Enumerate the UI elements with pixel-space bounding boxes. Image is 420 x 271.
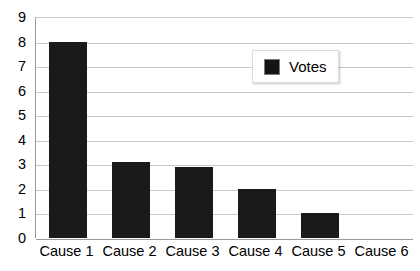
y-tick-label: 8 [2,34,26,49]
bar-slot [162,18,225,238]
x-tick-label: Cause 2 [102,243,156,260]
bar-slot [36,18,99,238]
y-tick-label: 0 [2,231,26,246]
y-axis: 9 8 7 6 5 4 3 2 1 0 [0,0,35,271]
gridline [36,239,413,240]
bar [112,162,150,238]
bar-slot [99,18,162,238]
x-tick-label: Cause 5 [291,243,345,260]
plot-area [35,17,413,238]
y-tick-label: 6 [2,83,26,98]
chart-legend: Votes [252,50,339,83]
y-tick-label: 4 [2,133,26,148]
y-tick-label: 2 [2,182,26,197]
legend-swatch-icon [264,59,280,75]
x-tick-label: Cause 4 [228,243,282,260]
x-tick-label: Cause 3 [165,243,219,260]
bar [238,189,276,238]
x-tick-label: Cause 1 [39,243,93,260]
y-tick-label: 9 [2,10,26,25]
x-axis: Cause 1Cause 2Cause 3Cause 4Cause 5Cause… [35,243,413,267]
y-tick-label: 7 [2,59,26,74]
bar-slot [351,18,414,238]
legend-label: Votes [289,59,327,74]
bar [301,213,339,238]
bar [175,167,213,238]
y-tick-label: 5 [2,108,26,123]
y-tick-label: 3 [2,157,26,172]
bar-chart: 9 8 7 6 5 4 3 2 1 0 Votes Cause 1Cause 2… [0,0,420,271]
bar [49,42,87,238]
y-tick-label: 1 [2,206,26,221]
x-tick-label: Cause 6 [354,243,408,260]
bars-layer [36,18,413,238]
